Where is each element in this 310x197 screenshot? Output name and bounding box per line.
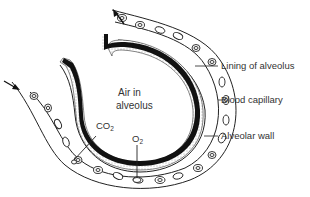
label-co2: CO2: [96, 121, 114, 133]
label-alveolus: alveolus: [116, 101, 153, 111]
o2-subscript: 2: [139, 138, 143, 145]
label-alveolar-wall: Alveolar wall: [221, 131, 274, 141]
label-lining-of-alveolus: Lining of alveolus: [221, 61, 294, 71]
co2-subscript: 2: [110, 125, 114, 132]
label-o2: O2: [132, 134, 143, 146]
co2-text: CO: [96, 120, 110, 131]
label-air-in: Air in: [118, 88, 141, 98]
label-blood-capillary: Blood capillary: [221, 95, 283, 105]
